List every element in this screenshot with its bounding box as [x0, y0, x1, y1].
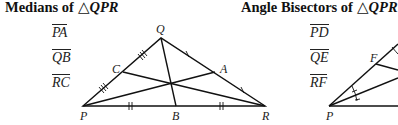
vertex-label-q: Q [156, 22, 165, 36]
medians-triangle [83, 38, 265, 106]
tick-marks [99, 50, 244, 110]
vertex-label-p-right: P [325, 109, 334, 123]
median-qb [161, 38, 176, 106]
geometry-figures: Q P R B C A P F [0, 0, 398, 125]
point-label-c: C [112, 62, 121, 76]
point-label-f: F [369, 51, 378, 65]
point-label-a: A [219, 62, 228, 76]
vertex-label-p: P [79, 109, 88, 123]
angle-bisectors-triangle [329, 44, 398, 106]
vertex-label-r: R [261, 109, 270, 123]
point-label-b: B [172, 109, 180, 123]
